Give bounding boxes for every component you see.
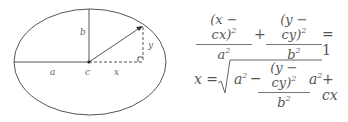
a-squared-2: a2 bbox=[309, 71, 322, 87]
ellipse-diagram: b y a c x bbox=[0, 0, 180, 122]
plus-sign: + bbox=[254, 26, 266, 42]
solved-x-equation: x = a2 − (y − cy)2 b2 a2 + cx bbox=[190, 56, 346, 100]
numerator: (y − cy)2 bbox=[266, 12, 322, 42]
lhs-x: x = bbox=[194, 71, 218, 87]
label-c: c bbox=[85, 67, 90, 77]
a-squared: a2 bbox=[234, 71, 247, 87]
right-angle-marker bbox=[138, 57, 143, 62]
label-y: y bbox=[147, 40, 154, 50]
label-b: b bbox=[80, 27, 86, 37]
label-a: a bbox=[50, 67, 55, 77]
ellipse-equation: (x − cx)2 a2 + (y − cy)2 b2 = 1 bbox=[190, 12, 346, 56]
radius-vector-line bbox=[89, 27, 141, 62]
label-x: x bbox=[114, 67, 119, 77]
fraction-y-term: (y − cy)2 b2 bbox=[258, 60, 310, 110]
equals-one: = 1 bbox=[322, 26, 346, 58]
fraction-y-term: (y − cy)2 b2 bbox=[266, 12, 322, 62]
numerator: (x − cx)2 bbox=[196, 12, 252, 42]
fraction-x-term: (x − cx)2 a2 bbox=[196, 12, 252, 62]
center-point bbox=[87, 60, 90, 63]
plus-cx: + cx bbox=[322, 71, 346, 103]
